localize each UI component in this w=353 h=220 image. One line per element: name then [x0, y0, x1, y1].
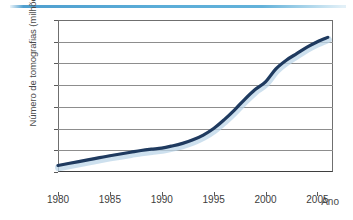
plot-area: 010203040506070 198019851990199520002005 — [58, 20, 333, 172]
x-tick-label: 1995 — [194, 195, 234, 205]
x-tick-label: 1990 — [142, 195, 182, 205]
series-line-tomografias — [58, 20, 333, 172]
x-tick-label: 1980 — [38, 195, 78, 205]
y-tick-mark — [54, 172, 58, 173]
top-decorative-rule — [10, 5, 346, 8]
chart-figure: Número de tomografias (milhões) 01020304… — [0, 0, 353, 220]
x-axis-label: Ano — [321, 196, 339, 207]
series-line — [58, 37, 328, 165]
x-tick-label: 2000 — [246, 195, 286, 205]
y-axis-label: Número de tomografias (milhões) — [27, 0, 38, 138]
x-tick-label: 1985 — [90, 195, 130, 205]
